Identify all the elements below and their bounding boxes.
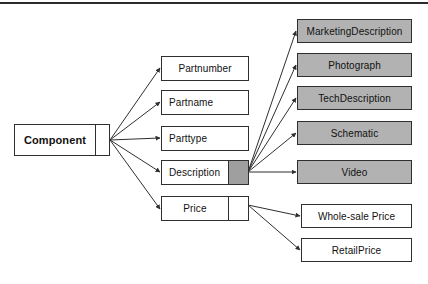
node-price-subcell (228, 197, 248, 220)
node-photograph-label: Photograph (298, 54, 411, 76)
node-retailprice-label: RetailPrice (302, 239, 411, 261)
diagram-canvas: Component Partnumber Partname Parttype D… (0, 0, 428, 284)
node-retailprice[interactable]: RetailPrice (301, 238, 412, 262)
node-photograph[interactable]: Photograph (297, 53, 412, 77)
edge-component-description (110, 140, 160, 172)
node-description-subcell (228, 161, 248, 184)
node-parttype[interactable]: Parttype (161, 126, 249, 151)
edge-description-techdescription (248, 98, 296, 172)
edge-component-partnumber (110, 68, 160, 140)
edge-description-photograph (248, 65, 296, 172)
node-marketingdescription[interactable]: MarketingDescription (297, 19, 412, 43)
node-description[interactable]: Description (161, 160, 249, 185)
node-price[interactable]: Price (161, 196, 249, 221)
node-parttype-label: Parttype (162, 127, 248, 150)
node-component-label: Component (15, 125, 95, 155)
node-partnumber[interactable]: Partnumber (161, 56, 249, 81)
edge-description-marketingdescription (248, 31, 296, 172)
node-partname-label: Partname (162, 91, 248, 114)
edge-price-retailprice (248, 205, 300, 250)
node-techdescription-label: TechDescription (298, 87, 411, 109)
edge-component-parttype (110, 138, 160, 140)
node-component-subcell (95, 125, 109, 155)
node-schematic[interactable]: Schematic (297, 121, 412, 145)
node-wholesale-price-label: Whole-sale Price (302, 205, 411, 227)
node-techdescription[interactable]: TechDescription (297, 86, 412, 110)
node-partname[interactable]: Partname (161, 90, 249, 115)
edge-description-schematic (248, 133, 296, 172)
node-price-label: Price (162, 197, 228, 220)
node-component[interactable]: Component (14, 124, 110, 156)
node-wholesale-price[interactable]: Whole-sale Price (301, 204, 412, 228)
edge-component-price (110, 140, 160, 209)
node-video[interactable]: Video (297, 160, 412, 184)
edge-component-partname (110, 102, 160, 140)
node-video-label: Video (298, 161, 411, 183)
edge-price-wholesaleprice (248, 205, 300, 216)
node-description-label: Description (162, 161, 228, 184)
node-schematic-label: Schematic (298, 122, 411, 144)
node-partnumber-label: Partnumber (162, 57, 248, 80)
node-marketingdescription-label: MarketingDescription (298, 20, 411, 42)
